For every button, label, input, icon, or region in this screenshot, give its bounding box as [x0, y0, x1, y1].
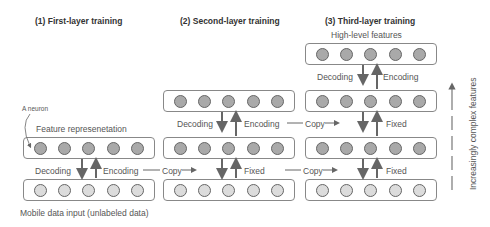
arrows-overlay — [0, 0, 490, 227]
neuron-pointer-arrow — [25, 114, 30, 146]
copy-arrows — [143, 123, 337, 170]
vertical-arrows — [82, 65, 377, 178]
